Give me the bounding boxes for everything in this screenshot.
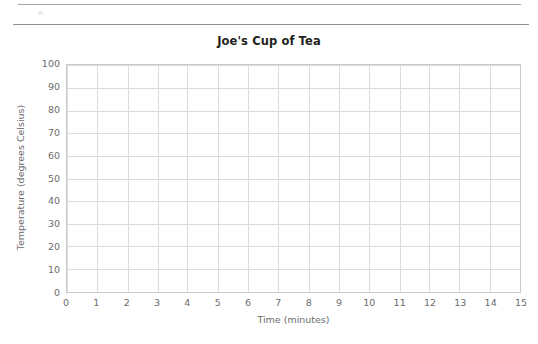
x-tick-label: 13 bbox=[448, 297, 472, 308]
y-tick-label: 90 bbox=[30, 82, 60, 92]
x-tick-label: 8 bbox=[297, 297, 321, 308]
x-tick-label: 14 bbox=[479, 297, 503, 308]
y-tick-label: 20 bbox=[30, 242, 60, 252]
x-tick-label: 4 bbox=[175, 297, 199, 308]
x-tick-label: 6 bbox=[236, 297, 260, 308]
upper-horizontal-rule bbox=[18, 4, 521, 5]
x-tick-label: 3 bbox=[145, 297, 169, 308]
y-tick-label: 30 bbox=[30, 219, 60, 229]
x-axis-title: Time (minutes) bbox=[66, 314, 521, 325]
x-tick-label: 2 bbox=[115, 297, 139, 308]
x-tick-label: 1 bbox=[84, 297, 108, 308]
x-tick-label: 12 bbox=[418, 297, 442, 308]
x-tick-label: 9 bbox=[327, 297, 351, 308]
x-tick-label: 15 bbox=[509, 297, 533, 308]
x-tick-label: 0 bbox=[54, 297, 78, 308]
y-tick-label: 70 bbox=[30, 128, 60, 138]
y-tick-label: 60 bbox=[30, 151, 60, 161]
plot-area bbox=[66, 64, 521, 293]
y-tick-label: 80 bbox=[30, 105, 60, 115]
lower-horizontal-rule bbox=[13, 24, 529, 25]
x-axis-tick-labels: 0123456789101112131415 bbox=[66, 297, 521, 311]
y-tick-label: 100 bbox=[30, 59, 60, 69]
y-tick-label: 10 bbox=[30, 265, 60, 275]
scan-artifact-mark bbox=[38, 11, 43, 15]
x-tick-label: 11 bbox=[388, 297, 412, 308]
grid-lines bbox=[67, 65, 520, 292]
y-axis-tick-labels: 0102030405060708090100 bbox=[30, 64, 60, 293]
y-tick-label: 40 bbox=[30, 196, 60, 206]
x-tick-label: 5 bbox=[206, 297, 230, 308]
chart-title: Joe's Cup of Tea bbox=[0, 34, 538, 48]
x-tick-label: 7 bbox=[266, 297, 290, 308]
y-tick-label: 50 bbox=[30, 174, 60, 184]
x-tick-label: 10 bbox=[357, 297, 381, 308]
y-axis-title: Temperature (degrees Celsius) bbox=[15, 66, 26, 290]
